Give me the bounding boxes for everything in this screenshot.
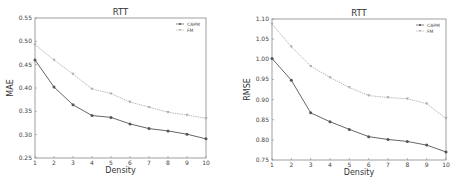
y-tick-label: 0.90 xyxy=(256,96,270,103)
legend-label-fm: FM xyxy=(427,29,434,34)
legend-marker-fm xyxy=(179,29,181,31)
x-tick-label: 9 xyxy=(185,159,189,166)
y-tick-label: 0.55 xyxy=(19,14,33,21)
y-tick-label: 0.30 xyxy=(19,131,33,138)
legend-label-capm: CAPM xyxy=(187,22,200,27)
data-point-capm xyxy=(186,133,189,136)
data-point-capm xyxy=(406,140,409,143)
y-tick-label: 0.80 xyxy=(256,136,270,143)
x-tick-label: 10 xyxy=(442,161,450,168)
y-tick-label: 1.00 xyxy=(256,55,270,62)
y-tick-label: 1.10 xyxy=(256,15,270,22)
legend-marker-capm xyxy=(419,24,421,26)
series-line-fm xyxy=(35,45,206,119)
x-tick-label: 8 xyxy=(166,159,170,166)
y-tick-label: 0.25 xyxy=(19,154,33,161)
data-point-capm xyxy=(34,59,37,62)
x-tick-label: 1 xyxy=(33,159,37,166)
data-point-capm xyxy=(387,138,390,141)
data-point-fm xyxy=(367,94,370,97)
data-point-capm xyxy=(91,114,94,117)
legend-marker-capm xyxy=(179,23,181,25)
figure: RTT123456789100.250.300.350.400.450.500.… xyxy=(0,0,460,187)
data-point-fm xyxy=(33,43,36,46)
chart-title: RTT xyxy=(351,8,367,18)
data-point-capm xyxy=(329,120,332,123)
y-tick-label: 0.75 xyxy=(256,156,270,163)
x-tick-label: 3 xyxy=(309,161,313,168)
chart-title: RTT xyxy=(113,7,129,17)
y-tick-label: 0.45 xyxy=(19,61,33,68)
data-point-fm xyxy=(90,88,93,91)
data-point-fm xyxy=(290,46,293,49)
x-tick-label: 7 xyxy=(147,159,151,166)
x-tick-label: 8 xyxy=(405,161,409,168)
x-tick-label: 7 xyxy=(386,161,390,168)
x-tick-label: 9 xyxy=(425,161,429,168)
data-point-fm xyxy=(270,23,273,26)
data-point-fm xyxy=(185,114,188,117)
x-axis-label: Density xyxy=(344,168,375,177)
plot-frame xyxy=(272,19,446,160)
legend-label-capm: CAPM xyxy=(427,23,440,28)
x-tick-label: 5 xyxy=(109,159,113,166)
y-tick-label: 0.35 xyxy=(19,107,33,114)
y-tick-label: 0.50 xyxy=(19,37,33,44)
y-tick-label: 0.40 xyxy=(19,84,33,91)
y-tick-label: 1.05 xyxy=(256,35,270,42)
data-point-capm xyxy=(425,144,428,147)
series-line-fm xyxy=(272,24,446,119)
data-point-capm xyxy=(148,127,151,130)
data-point-capm xyxy=(348,128,351,131)
data-point-capm xyxy=(445,150,448,153)
mae-chart: RTT123456789100.250.300.350.400.450.500.… xyxy=(0,0,230,187)
y-axis-label: RMSE xyxy=(243,78,252,101)
x-tick-label: 1 xyxy=(270,161,274,168)
x-tick-label: 6 xyxy=(367,161,371,168)
data-point-capm xyxy=(205,137,208,140)
x-tick-label: 4 xyxy=(328,161,332,168)
data-point-capm xyxy=(53,86,56,89)
rmse-chart: RTT123456789100.750.800.850.900.951.001.… xyxy=(230,0,460,187)
y-tick-label: 0.95 xyxy=(256,75,270,82)
data-point-capm xyxy=(290,79,293,82)
data-point-capm xyxy=(167,129,170,132)
data-point-capm xyxy=(309,111,312,114)
data-point-capm xyxy=(367,135,370,138)
y-tick-label: 0.85 xyxy=(256,116,270,123)
legend-label-fm: FM xyxy=(187,28,194,33)
legend-marker-fm xyxy=(419,30,421,32)
x-tick-label: 2 xyxy=(289,161,293,168)
x-tick-label: 2 xyxy=(52,159,56,166)
data-point-fm xyxy=(147,106,150,109)
x-axis-label: Density xyxy=(105,166,136,175)
data-point-capm xyxy=(129,122,132,125)
x-tick-label: 5 xyxy=(347,161,351,168)
series-line-capm xyxy=(272,58,446,151)
data-point-capm xyxy=(110,116,113,119)
data-point-capm xyxy=(271,57,274,60)
y-axis-label: MAE xyxy=(6,79,15,96)
x-tick-label: 4 xyxy=(90,159,94,166)
data-point-capm xyxy=(72,103,75,106)
x-tick-label: 6 xyxy=(128,159,132,166)
x-tick-label: 3 xyxy=(71,159,75,166)
series-line-capm xyxy=(35,60,206,139)
data-point-fm xyxy=(444,117,447,120)
x-tick-label: 10 xyxy=(202,159,210,166)
plot-frame xyxy=(35,18,206,158)
